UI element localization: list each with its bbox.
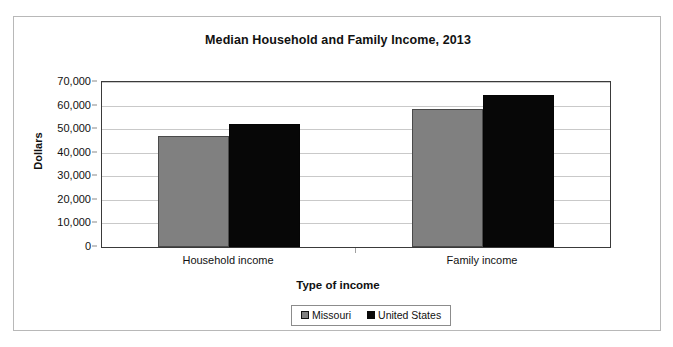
y-axis-tick-label: 30,000	[57, 169, 91, 181]
y-axis-tick-label: 40,000	[57, 146, 91, 158]
legend-swatch-icon	[367, 311, 375, 319]
y-axis-tick-label: 10,000	[57, 216, 91, 228]
legend-label: United States	[378, 309, 441, 321]
y-axis-tick-label: 70,000	[57, 75, 91, 87]
gridline	[102, 247, 610, 248]
plot-area	[101, 81, 611, 248]
y-axis-tick-mark	[92, 198, 97, 199]
legend-label: Missouri	[312, 309, 351, 321]
x-axis-category-label: Family income	[447, 254, 518, 266]
gridline	[102, 82, 610, 83]
chart-title: Median Household and Family Income, 2013	[14, 33, 662, 47]
bar-household-income-missouri	[158, 136, 229, 247]
x-axis-tick-mark	[355, 248, 356, 253]
y-axis-tick-label: 50,000	[57, 122, 91, 134]
chart-container: Median Household and Family Income, 2013…	[13, 16, 661, 331]
y-axis-tick-mark	[92, 128, 97, 129]
bar-family-income-missouri	[412, 109, 483, 247]
legend-entry[interactable]: United States	[367, 309, 441, 321]
y-axis-tick-mark	[92, 246, 97, 247]
chart-legend: MissouriUnited States	[291, 305, 451, 326]
y-axis-tick-mark	[92, 222, 97, 223]
y-axis-tick-label: 20,000	[57, 193, 91, 205]
legend-swatch-icon	[301, 311, 309, 319]
bar-family-income-united-states	[483, 95, 554, 247]
y-axis-tick-label: 60,000	[57, 99, 91, 111]
legend-entry[interactable]: Missouri	[301, 309, 351, 321]
bar-household-income-united-states	[229, 124, 300, 247]
y-axis-tick-labels: 010,00020,00030,00040,00050,00060,00070,…	[39, 81, 97, 246]
y-axis-tick-mark	[92, 104, 97, 105]
y-axis-tick-mark	[92, 175, 97, 176]
y-axis-tick-mark	[92, 81, 97, 82]
x-axis-category-labels: Household incomeFamily income	[101, 254, 611, 272]
y-axis-tick-mark	[92, 151, 97, 152]
x-axis-category-label: Household income	[182, 254, 273, 266]
x-axis-title: Type of income	[14, 279, 662, 291]
y-axis-tick-label: 0	[85, 240, 91, 252]
